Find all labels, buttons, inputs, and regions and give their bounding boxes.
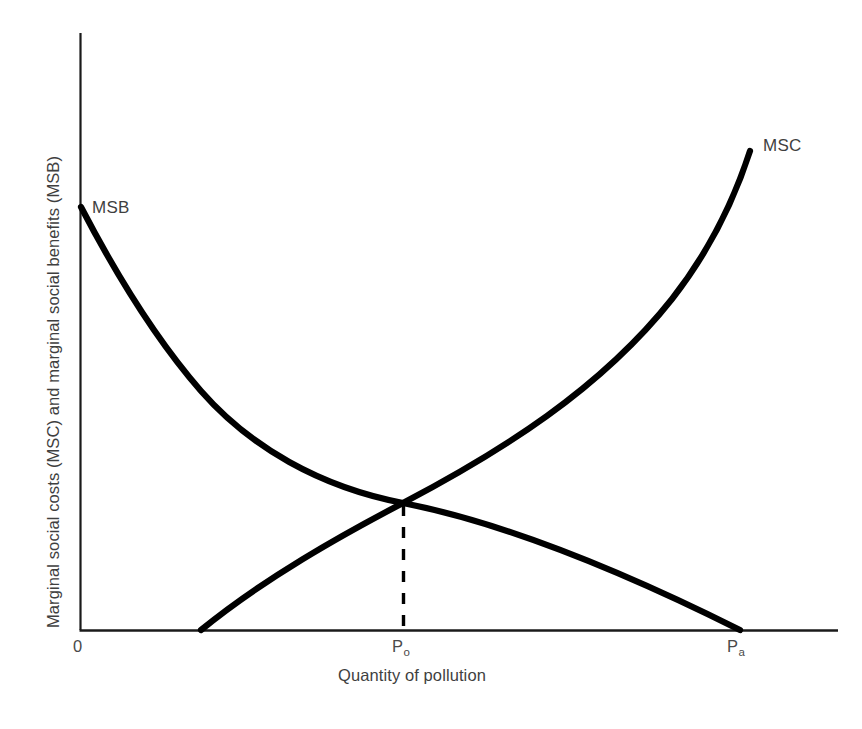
x-tick-origin: 0	[73, 637, 82, 656]
msc-curve-label: MSC	[763, 136, 802, 156]
x-tick-p-max-base: P	[727, 637, 738, 655]
y-axis-title: Marginal social costs (MSC) and marginal…	[44, 156, 63, 628]
x-tick-p-optimum-subscript: o	[404, 646, 410, 658]
x-tick-p-optimum-base: P	[392, 637, 403, 655]
msb-curve-label: MSB	[92, 198, 130, 218]
msb-curve	[81, 207, 740, 630]
x-tick-p-optimum: Po	[392, 637, 409, 656]
x-tick-p-max-subscript: a	[739, 646, 745, 658]
x-axis-title: Quantity of pollution	[338, 666, 486, 685]
chart-plot-area	[0, 0, 862, 729]
msc-curve	[201, 151, 750, 630]
x-tick-p-max: Pa	[727, 637, 744, 656]
pollution-externality-chart: Marginal social costs (MSC) and marginal…	[0, 0, 862, 729]
